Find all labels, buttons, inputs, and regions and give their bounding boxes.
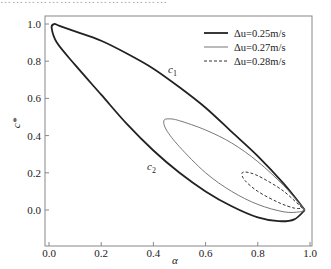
curves — [52, 24, 305, 221]
y-tick-label: 0.6 — [27, 92, 41, 104]
y-tick-label: 1.0 — [27, 18, 41, 30]
y-axis-label: c* — [10, 117, 22, 128]
curve-dashed — [242, 172, 302, 209]
y-tick-label: 0.8 — [27, 55, 41, 67]
x-tick-label: 0.8 — [251, 247, 265, 259]
x-tick-label: 1.0 — [303, 247, 317, 259]
x-tick-label: 0.6 — [199, 247, 213, 259]
curve-solid-thin — [164, 119, 305, 213]
legend-label-2: Δu=0.28m/s — [234, 56, 285, 67]
y-tick-label: 0.0 — [27, 204, 41, 216]
curve-label-c2: c2 — [147, 160, 156, 175]
x-tick-label: 0.2 — [94, 247, 108, 259]
y-axis-ticks: 0.00.20.40.60.81.0 — [27, 18, 49, 216]
y-tick-label: 0.2 — [27, 167, 41, 179]
legend-label-1: Δu=0.27m/s — [234, 42, 285, 53]
x-tick-label: 0.0 — [42, 247, 56, 259]
y-tick-label: 0.4 — [27, 130, 41, 142]
legend: Δu=0.25m/s Δu=0.27m/s Δu=0.28m/s — [204, 28, 285, 67]
curve-solid-thick — [52, 24, 305, 221]
chart: 0.00.20.40.60.81.0 0.00.20.40.60.81.0 c1… — [0, 0, 331, 269]
x-axis-label: α — [172, 254, 178, 266]
x-tick-label: 0.4 — [147, 247, 161, 259]
curve-label-c1: c1 — [168, 63, 177, 78]
legend-label-0: Δu=0.25m/s — [234, 28, 285, 39]
x-axis-ticks: 0.00.20.40.60.81.0 — [42, 242, 317, 259]
